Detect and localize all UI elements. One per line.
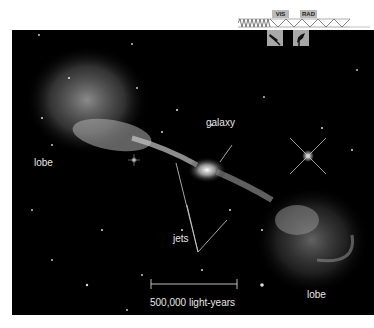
optical-telescope-icon bbox=[267, 30, 283, 46]
spectrum-zigzag-icon bbox=[238, 18, 370, 28]
radio-tag: RAD bbox=[300, 10, 317, 18]
galaxy-label: galaxy bbox=[206, 117, 235, 128]
galaxy-image: lobe galaxy jets 500,000 light-years lob… bbox=[12, 30, 374, 315]
lobe-left-label: lobe bbox=[34, 157, 53, 168]
lobe-right-label: lobe bbox=[307, 289, 326, 300]
visible-tag: VIS bbox=[272, 10, 289, 18]
radio-dish-icon bbox=[293, 30, 309, 46]
wavelength-badge-bar: VIS RAD bbox=[238, 10, 370, 32]
scale-bar-label: 500,000 light-years bbox=[150, 297, 235, 308]
jets-label: jets bbox=[173, 233, 189, 244]
